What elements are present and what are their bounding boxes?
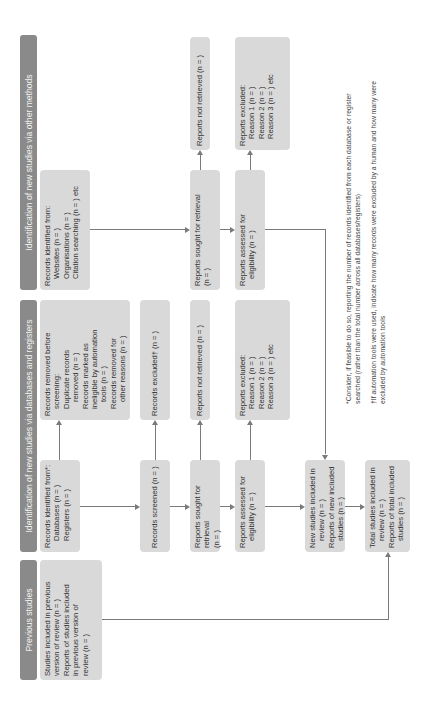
text: Reports excluded: xyxy=(238,304,247,416)
text: Total studies included in xyxy=(368,464,377,548)
footnote-databases: *Consider, if feasible to do so, reporti… xyxy=(345,74,362,404)
arrow-down-icon xyxy=(360,504,365,510)
total-studies-included-box: Total studies included in review (n = ) … xyxy=(365,460,410,552)
arrow-down-icon xyxy=(185,227,190,233)
db-records-screened-box: Records screened (n = ) xyxy=(140,460,170,552)
previous-studies-box: Studies included in previous version of … xyxy=(40,560,102,680)
text: *Consider, if feasible to do so, reporti… xyxy=(345,126,352,404)
connector xyxy=(250,155,251,170)
connector xyxy=(325,229,326,454)
text: Records marked as xyxy=(81,304,90,416)
db-reports-not-retrieved-box: Reports not retrieved (n = ) xyxy=(190,300,210,420)
text: Websites (n = ) xyxy=(52,174,61,286)
text: eligibility (n = ) xyxy=(247,174,256,286)
text: Reason 1 (n = ) xyxy=(247,304,256,416)
text: New studies included in xyxy=(308,464,317,548)
text: Reports excluded: xyxy=(238,41,247,146)
db-reports-sought-box: Reports sought for retrieval (n = ) xyxy=(190,460,220,552)
connector xyxy=(250,425,251,460)
db-reports-excluded-box: Reports excluded: Reason 1 (n = ) Reason… xyxy=(235,300,290,420)
text: Records identified from*: xyxy=(43,464,52,548)
arrow-right-icon xyxy=(56,420,62,425)
connector xyxy=(59,425,60,460)
db-reports-assessed-box: Reports assessed for eligibility (n = ) xyxy=(235,460,265,552)
text: (n = ) xyxy=(202,174,211,286)
other-reports-sought-box: Reports sought for retrieval (n = ) xyxy=(190,170,220,290)
connector xyxy=(220,229,230,230)
text: ineligible by automation xyxy=(90,304,99,416)
text: Records identified from: xyxy=(43,174,52,286)
text: Reason 1 (n = ) xyxy=(247,41,256,146)
prisma-flow-diagram: Previous studies Identification of new s… xyxy=(0,0,432,704)
text: Reports assessed for xyxy=(238,174,247,286)
connector xyxy=(265,229,325,230)
arrow-down-icon xyxy=(135,504,140,510)
text: Records screened (n = ) xyxy=(150,466,159,548)
text: Registers (n = ) xyxy=(62,464,71,548)
connector xyxy=(200,155,201,170)
text: Duplicate records xyxy=(62,304,71,416)
text: review (n = ) xyxy=(317,464,326,548)
text: Reports of new included xyxy=(327,464,336,548)
text: Reports of total included xyxy=(387,464,396,548)
connector xyxy=(80,506,135,507)
text: in previous version of xyxy=(71,564,80,676)
header-databases-registers: Identification of new studies via databa… xyxy=(20,300,37,552)
new-studies-included-box: New studies included in review (n = ) Re… xyxy=(305,460,345,552)
connector xyxy=(220,506,230,507)
connector xyxy=(200,425,201,460)
text: Studies included in previous xyxy=(43,564,52,676)
footnote-automation: †If automation tools were used, indicate… xyxy=(370,74,387,404)
other-reports-excluded-box: Reports excluded: Reason 1 (n = ) Reason… xyxy=(235,37,290,150)
connector xyxy=(102,619,388,620)
arrow-down-icon xyxy=(230,227,235,233)
connector xyxy=(90,229,185,230)
text: Reports not retrieved (n = ) xyxy=(195,55,204,146)
text: Records removed before xyxy=(43,304,52,416)
text: Records excluded† (n = ) xyxy=(150,331,159,416)
db-records-excluded-box: Records excluded† (n = ) xyxy=(140,300,170,420)
connector xyxy=(345,506,360,507)
header-other-methods: Identification of new studies via other … xyxy=(20,35,37,290)
arrow-right-icon xyxy=(197,420,203,425)
arrow-right-icon xyxy=(247,420,253,425)
arrow-down-icon xyxy=(300,504,305,510)
other-reports-not-retrieved-box: Reports not retrieved (n = ) xyxy=(190,37,210,150)
arrow-right-icon xyxy=(247,150,253,155)
text: tools (n = ) xyxy=(99,304,108,416)
text: Reports sought for retrieval xyxy=(193,174,202,286)
text: review (n = ) xyxy=(81,564,90,676)
arrow-down-icon xyxy=(230,504,235,510)
text: review (n = ) xyxy=(377,464,386,548)
connector xyxy=(388,557,389,620)
text: Reports sought for retrieval xyxy=(193,464,212,548)
arrow-right-icon xyxy=(152,420,158,425)
arrow-left-icon xyxy=(322,455,328,460)
text: Reason 2 (n = ) xyxy=(257,304,266,416)
arrow-down-icon xyxy=(185,504,190,510)
arrow-right-icon xyxy=(385,552,391,557)
db-records-removed-box: Records removed before screening: Duplic… xyxy=(40,300,130,420)
arrow-right-icon xyxy=(197,150,203,155)
text: removed (n = ) xyxy=(71,304,80,416)
text: Citation searching (n = ) etc xyxy=(71,174,80,286)
text: studies (n = ) xyxy=(396,464,405,548)
text: †If automation tools were used, indicate… xyxy=(370,130,377,404)
text: Reports assessed for xyxy=(238,464,247,548)
db-records-identified-box: Records identified from*: Databases (n =… xyxy=(40,460,80,552)
text: eligibility (n = ) xyxy=(247,464,256,548)
connector xyxy=(170,506,185,507)
text: Databases (n = ) xyxy=(52,464,61,548)
connector xyxy=(265,506,300,507)
text: screening: xyxy=(52,304,61,416)
text: other reasons (n = ) xyxy=(118,304,127,416)
text: Reason 3 (n = ) etc xyxy=(266,304,275,416)
text: Reports of studies included xyxy=(62,564,71,676)
text: Organisations (n = ) xyxy=(62,174,71,286)
text: version of review (n = ) xyxy=(52,564,61,676)
text: Reason 3 (n = ) etc xyxy=(266,41,275,146)
connector xyxy=(155,425,156,460)
header-previous-studies: Previous studies xyxy=(20,560,37,680)
text: Records removed for xyxy=(109,304,118,416)
other-records-identified-box: Records identified from: Websites (n = )… xyxy=(40,170,90,290)
